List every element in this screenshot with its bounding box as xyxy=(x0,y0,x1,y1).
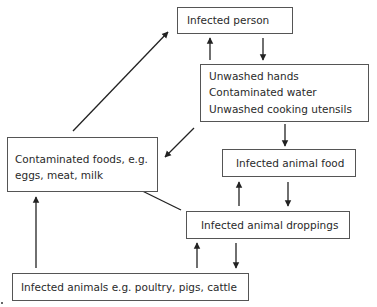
node-transmission: Unwashed hands Contaminated water Unwash… xyxy=(200,64,369,122)
node-label: Infected animal food xyxy=(236,155,355,171)
arrow-transmission-to-contaminated-foods xyxy=(165,128,194,157)
node-infected-animals: Infected animals e.g. poultry, pigs, cat… xyxy=(12,273,249,301)
stray-dot xyxy=(1,302,3,304)
arrow-contaminated-foods-to-person xyxy=(73,32,168,131)
node-contaminated-foods: Contaminated foods, e.g. eggs, meat, mil… xyxy=(7,137,158,192)
node-label: Contaminated foods, e.g. xyxy=(15,151,157,167)
node-label: Unwashed hands xyxy=(209,68,368,84)
node-label: Infected person xyxy=(187,12,292,28)
node-label: eggs, meat, milk xyxy=(15,167,157,183)
node-animal-droppings: Infected animal droppings xyxy=(186,211,350,239)
node-label: Contaminated water xyxy=(209,84,368,100)
node-animal-food: Infected animal food xyxy=(222,149,356,177)
node-label: Unwashed cooking utensils xyxy=(209,101,368,117)
node-infected-person: Infected person xyxy=(177,7,293,34)
node-label: Infected animals e.g. poultry, pigs, cat… xyxy=(21,279,248,295)
node-label: Infected animal droppings xyxy=(201,217,349,233)
